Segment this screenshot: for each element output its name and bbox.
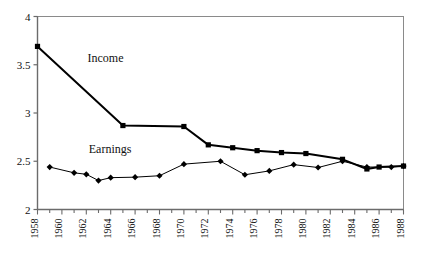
y-tick-label: 4 [25,11,31,23]
data-point-marker [181,161,187,167]
x-tick-label: 1982 [321,219,332,239]
data-point-marker [120,123,125,128]
data-point-marker [242,172,248,178]
series-earnings [47,158,407,184]
plot-frame [38,17,404,210]
data-point-marker [35,44,40,49]
data-point-marker [71,170,77,176]
series-annotation-income: Income [88,51,124,65]
x-tick-label: 1972 [199,219,210,239]
data-point-marker [156,173,162,179]
y-tick-label: 2.5 [17,155,31,167]
x-tick-label: 1962 [77,219,88,239]
data-point-marker [181,124,186,129]
data-point-marker [291,162,297,168]
x-tick-label: 1964 [102,219,113,239]
data-point-marker [303,151,308,156]
data-point-marker [47,164,53,170]
x-tick-label: 1976 [248,219,259,239]
data-point-marker [108,175,114,181]
x-tick-label: 1966 [126,219,137,239]
data-point-marker [255,148,260,153]
line-chart: 22.533.541958196019621964196619681970197… [0,0,424,257]
x-tick-label: 1974 [224,219,235,239]
x-tick-label: 1960 [53,219,64,239]
data-point-marker [388,164,394,170]
x-tick-label: 1958 [29,219,40,239]
data-point-marker [266,168,272,174]
data-point-marker [279,150,284,155]
data-point-marker [315,164,321,170]
series-line-earnings [50,161,404,180]
x-tick-label: 1980 [297,219,308,239]
x-tick-label: 1988 [395,219,406,239]
y-tick-label: 3 [25,107,31,119]
data-point-marker [206,142,211,147]
data-point-marker [217,158,223,164]
x-tick-label: 1978 [273,219,284,239]
data-point-marker [83,171,89,177]
x-tick-label: 1984 [346,219,357,239]
series-annotation-earnings: Earnings [89,142,132,156]
x-tick-label: 1970 [175,219,186,239]
y-tick-label: 2 [25,204,31,216]
x-tick-label: 1968 [151,219,162,239]
chart-canvas: 22.533.541958196019621964196619681970197… [0,0,424,257]
y-tick-label: 3.5 [17,59,31,71]
data-point-marker [95,177,101,183]
data-point-marker [230,145,235,150]
x-tick-label: 1986 [370,219,381,239]
data-point-marker [132,174,138,180]
